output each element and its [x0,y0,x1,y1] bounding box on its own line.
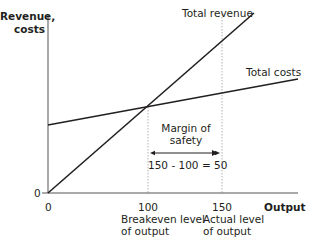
x-tick-150: 150 [202,201,242,213]
arrow-right-head [215,151,220,155]
x-tick-zero: 0 [45,201,52,213]
x-tick-100: 100 [128,201,168,213]
total-costs-label: Total costs [246,66,301,78]
margin-of-safety-label-line2: safety [152,134,220,146]
y-axis-label-line2: costs [0,23,45,35]
y-axis-label-line1: Revenue, [0,10,45,22]
y-tick-zero: 0 [34,187,41,199]
margin-of-safety-calc: 150 - 100 = 50 [148,159,224,171]
total-costs-line [48,79,298,125]
x-tick-150-sublabel-2: of output [203,225,251,237]
x-tick-100-sublabel-2: of output [121,225,169,237]
breakeven-chart: Revenue, costs 0 0 100 Breakeven level o… [0,0,312,249]
x-tick-150-sublabel-1: Actual level [203,213,264,225]
total-revenue-label: Total revenue [182,7,253,19]
margin-of-safety-label-line1: Margin of [152,122,220,134]
arrow-left-head [150,151,155,155]
x-tick-100-sublabel-1: Breakeven level [121,213,205,225]
x-axis-label: Output [264,201,305,213]
